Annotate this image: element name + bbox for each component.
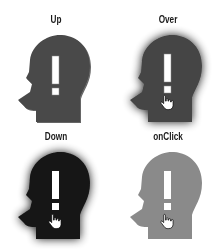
- state-down: Down: [0, 125, 112, 251]
- head-exclamation-icon[interactable]: [10, 30, 100, 126]
- head-exclamation-icon[interactable]: [122, 30, 212, 126]
- state-up: Up: [0, 0, 112, 125]
- head-exclamation-icon[interactable]: [122, 147, 212, 243]
- state-label-down: Down: [10, 131, 102, 142]
- state-label-onclick: onClick: [122, 131, 214, 142]
- head-exclamation-icon[interactable]: [10, 147, 100, 243]
- state-onclick: onClick: [112, 125, 224, 251]
- state-label-over: Over: [122, 14, 214, 25]
- state-label-up: Up: [10, 14, 102, 25]
- state-over: Over: [112, 0, 224, 125]
